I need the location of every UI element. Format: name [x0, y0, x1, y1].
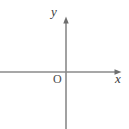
coordinate-plane-figure: y x O [0, 0, 129, 129]
y-axis-arrowhead [63, 17, 68, 24]
origin-label: O [53, 73, 62, 85]
x-axis-label: x [115, 72, 121, 85]
y-axis-label: y [51, 5, 57, 18]
axes-drawing [0, 0, 129, 129]
